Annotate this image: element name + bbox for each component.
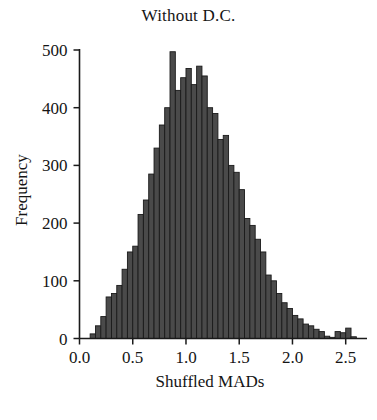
- histogram-bar: [165, 108, 170, 339]
- histogram-bar: [154, 148, 159, 338]
- histogram-bar: [346, 328, 351, 338]
- histogram-bar: [245, 218, 250, 338]
- histogram-bar: [266, 275, 271, 338]
- histogram-bar: [287, 309, 292, 339]
- histogram-bar: [191, 85, 196, 339]
- bars-group: [90, 52, 356, 339]
- histogram-bar: [202, 76, 207, 339]
- histogram-bar: [122, 269, 127, 338]
- histogram-bar: [314, 329, 319, 338]
- histogram-bar: [223, 135, 228, 338]
- histogram-bar: [181, 78, 186, 339]
- histogram-bar: [271, 281, 276, 339]
- x-tick-label: 2.0: [282, 348, 303, 367]
- histogram-bar: [250, 225, 255, 338]
- histogram-bar: [207, 108, 212, 339]
- histogram-bar: [213, 113, 218, 338]
- histogram-bar: [149, 174, 154, 338]
- y-tick-label: 500: [42, 41, 68, 60]
- x-tick-label: 2.5: [335, 348, 356, 367]
- y-tick-label: 400: [42, 99, 68, 118]
- y-tick-label: 200: [42, 214, 68, 233]
- histogram-bar: [276, 293, 281, 338]
- histogram-bar: [117, 285, 122, 338]
- histogram-bar: [255, 239, 260, 338]
- x-tick-label: 0.0: [69, 348, 90, 367]
- y-tick-label: 0: [59, 330, 68, 349]
- histogram-bar: [101, 317, 106, 339]
- histogram-bar: [175, 90, 180, 338]
- histogram-bar: [133, 246, 138, 338]
- histogram-bar: [186, 68, 191, 338]
- histogram-bar: [106, 297, 111, 339]
- histogram-figure: Without D.C. Frequency Shuffled MADs 0.0…: [0, 0, 377, 420]
- histogram-bar: [95, 326, 100, 339]
- y-tick-label: 100: [42, 272, 68, 291]
- histogram-bar: [303, 324, 308, 338]
- x-tick-label: 1.0: [175, 348, 196, 367]
- x-tick-label: 0.5: [122, 348, 143, 367]
- histogram-bar: [159, 125, 164, 338]
- histogram-bar: [234, 172, 239, 338]
- y-tick-labels: 0100200300400500: [42, 41, 68, 349]
- histogram-bar: [138, 214, 143, 338]
- histogram-bar: [197, 66, 202, 338]
- histogram-bar: [261, 252, 266, 339]
- histogram-bar: [229, 165, 234, 338]
- histogram-bar: [340, 333, 345, 339]
- histogram-bar: [335, 332, 340, 339]
- y-tick-label: 300: [42, 156, 68, 175]
- histogram-bar: [292, 315, 297, 338]
- histogram-bar: [127, 252, 132, 339]
- histogram-bar: [319, 332, 324, 339]
- histogram-bar: [239, 190, 244, 339]
- histogram-bar: [111, 293, 116, 338]
- histogram-bar: [170, 52, 175, 339]
- plot-area: 0.00.51.01.52.02.5 0100200300400500: [0, 0, 377, 420]
- histogram-bar: [218, 139, 223, 338]
- x-tick-label: 1.5: [229, 348, 250, 367]
- histogram-bar: [298, 319, 303, 339]
- x-tick-labels: 0.00.51.01.52.02.5: [69, 348, 356, 367]
- histogram-bar: [308, 326, 313, 339]
- histogram-bar: [282, 303, 287, 339]
- histogram-bar: [143, 200, 148, 338]
